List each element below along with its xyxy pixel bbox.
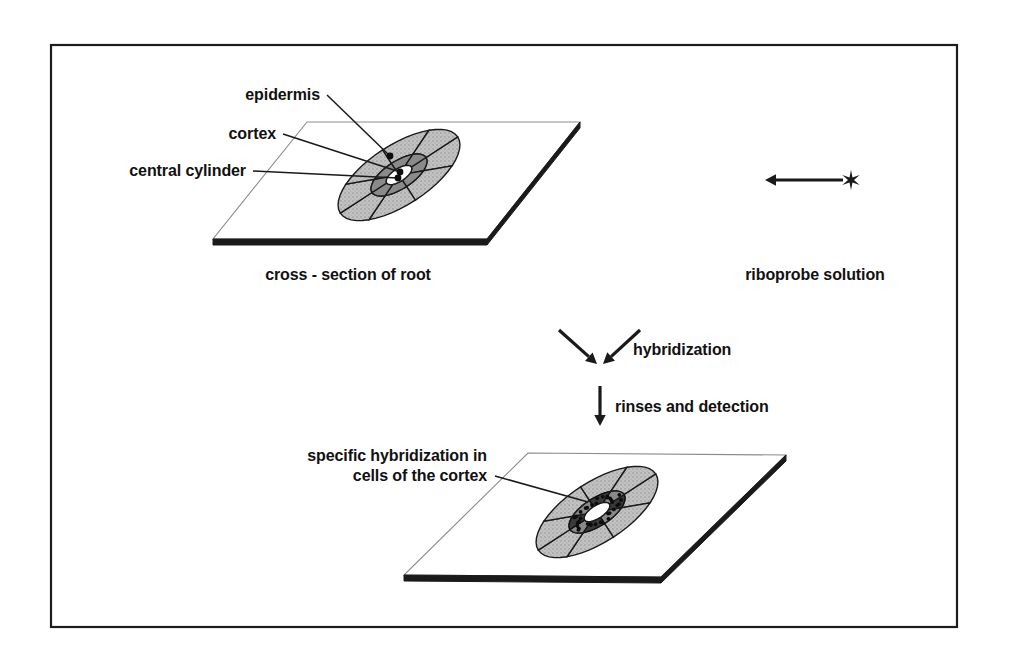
leader-dot-cortex: [397, 169, 404, 176]
silver-grain: [579, 517, 583, 521]
silver-grain: [594, 501, 598, 505]
silver-grain: [585, 506, 589, 510]
figure-root: epidermiscortexcentral cylindercross - s…: [0, 0, 1015, 662]
label-line-2: cells of the cortex: [353, 467, 487, 484]
silver-grain: [595, 496, 599, 500]
silver-grain: [606, 512, 610, 516]
label-cortex: cortex: [229, 125, 277, 142]
silver-grain: [577, 520, 581, 524]
label-hybridization: hybridization: [633, 341, 731, 358]
silver-grain: [615, 503, 619, 507]
caption-cross-section-of-root: cross - section of root: [265, 266, 431, 283]
label-central-cylinder: central cylinder: [129, 162, 246, 179]
label-epidermis: epidermis: [245, 86, 320, 103]
top-slide-front-edge: [213, 239, 487, 245]
silver-grain: [574, 514, 578, 518]
silver-grain: [617, 493, 621, 497]
silver-grain: [599, 520, 603, 524]
silver-grain: [579, 510, 583, 514]
label-line-1: specific hybridization in: [307, 447, 487, 464]
diagram-canvas: epidermiscortexcentral cylindercross - s…: [0, 0, 1015, 662]
silver-grain: [610, 498, 614, 502]
silver-grain: [601, 495, 605, 499]
leader-dot-central-cylinder: [395, 175, 402, 182]
silver-grain: [607, 517, 611, 521]
silver-grain: [612, 507, 616, 511]
silver-grain: [590, 503, 594, 507]
caption-riboprobe-solution: riboprobe solution: [745, 266, 885, 283]
label-rinses-and-detection: rinses and detection: [615, 398, 769, 415]
silver-grain: [586, 522, 590, 526]
silver-grain: [619, 498, 623, 502]
leader-dot-epidermis: [387, 153, 394, 160]
bottom-slide-front-edge: [404, 575, 661, 583]
silver-grain: [594, 522, 598, 526]
